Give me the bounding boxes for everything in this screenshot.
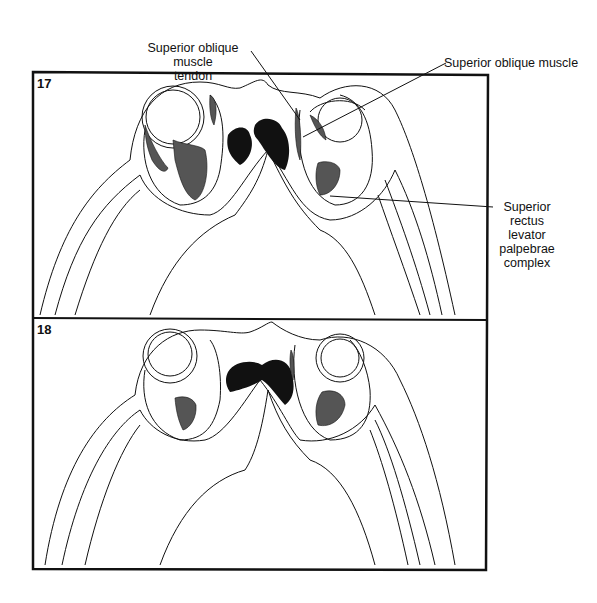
label-line: Superior oblique muscle <box>128 41 258 69</box>
panel-number-18: 18 <box>37 322 51 337</box>
panel-18-sinus-fill <box>226 360 294 405</box>
label-superior-oblique-tendon: Superior oblique muscle tendon <box>128 41 258 83</box>
label-line: palpebrae <box>492 242 562 256</box>
label-superior-oblique-muscle: Superior oblique muscle <box>444 56 578 70</box>
panel-18-drawing <box>45 322 455 565</box>
label-line: rectus <box>492 214 562 228</box>
panel-17-drawing <box>40 80 455 315</box>
panel-18-muscle-hatch <box>175 350 345 430</box>
label-superior-rectus-complex: Superior rectus levator palpebrae comple… <box>492 200 562 270</box>
figure-frame <box>33 72 488 570</box>
label-line: Superior <box>492 200 562 214</box>
label-line: tendon <box>128 69 258 83</box>
label-line: complex <box>492 256 562 270</box>
anatomy-drawing <box>0 0 597 603</box>
panel-number-17: 17 <box>37 76 51 91</box>
label-line: levator <box>492 228 562 242</box>
